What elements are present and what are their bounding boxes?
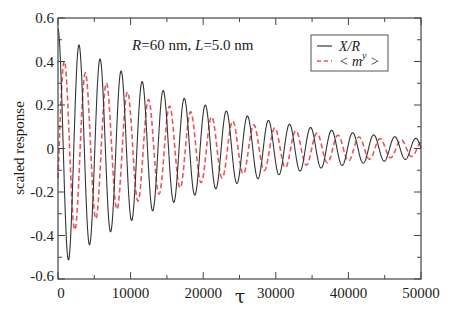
y-tick-label: -0.6 (30, 268, 54, 284)
y-tick-label: 0 (47, 141, 55, 157)
x-axis-title: τ (235, 285, 246, 307)
y-tick-label: 0.6 (35, 10, 54, 26)
x-tick-labels: 01000020000300004000050000 (57, 285, 440, 301)
y-tick-label: 0.4 (35, 54, 54, 70)
y-tick-labels: -0.6-0.4-0.200.20.40.6 (30, 10, 54, 284)
x-tick-label: 0 (57, 285, 65, 301)
x-tick-label: 40000 (330, 285, 368, 301)
y-tick-label: -0.4 (30, 228, 54, 244)
y-axis-title: scaled response (11, 101, 27, 195)
y-tick-label: 0.2 (35, 97, 54, 113)
r-value: =60 nm, (141, 37, 195, 53)
r-label: R (131, 37, 141, 53)
l-label: L (194, 37, 203, 53)
x-tick-label: 10000 (112, 285, 150, 301)
series-my-curve (58, 61, 421, 230)
l-value: =5.0 nm (203, 37, 253, 53)
legend: X/R < my > (311, 35, 388, 71)
chart: 01000020000300004000050000 -0.6-0.4-0.20… (0, 0, 453, 322)
x-tick-label: 50000 (402, 285, 440, 301)
parameter-annotation: R=60 nm, L=5.0 nm (131, 37, 254, 53)
x-tick-label: 30000 (257, 285, 295, 301)
legend-label-xr: X/R (338, 39, 360, 54)
x-tick-label: 20000 (184, 285, 222, 301)
y-tick-label: -0.2 (30, 184, 54, 200)
